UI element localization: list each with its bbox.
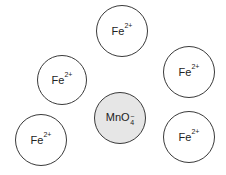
ion-label: Fe2+ (52, 74, 73, 86)
ion-label: Fe2+ (112, 25, 133, 37)
fe2-ion-upper-left: Fe2+ (37, 55, 87, 105)
fe2-ion-lower-left: Fe2+ (15, 114, 67, 166)
fe2-ion-top: Fe2+ (96, 5, 148, 57)
fe2-ion-upper-right: Fe2+ (163, 46, 215, 98)
fe2-ion-lower-right: Fe2+ (163, 111, 215, 163)
permanganate-ion: MnO−4 (94, 92, 146, 144)
ion-label: Fe2+ (31, 134, 52, 146)
ion-label: Fe2+ (179, 66, 200, 78)
ion-label: MnO−4 (106, 111, 134, 124)
ion-label: Fe2+ (179, 131, 200, 143)
